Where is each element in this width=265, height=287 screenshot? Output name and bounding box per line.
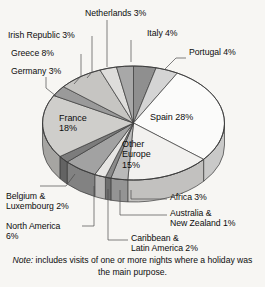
slice-label-australia-new-zealand: Australia & New Zealand 1% <box>170 208 235 229</box>
slice-label-belgium-luxembourg: Belgium & Luxembourg 2% <box>6 191 69 212</box>
pie-chart-figure: Netherlands 3% Italy 4% Portugal 4% Iris… <box>0 0 265 287</box>
slice-label-irish-republic: Irish Republic 3% <box>8 30 75 40</box>
pie-slices-group <box>43 66 225 202</box>
slice-label-spain: Spain 28% <box>150 112 193 122</box>
pie-slice-side <box>111 178 128 202</box>
slice-label-netherlands: Netherlands 3% <box>85 8 146 18</box>
chart-note-prefix: Note: <box>13 255 34 265</box>
slice-label-portugal: Portugal 4% <box>189 47 236 57</box>
leader-germany <box>46 77 56 96</box>
slice-label-france: France 18% <box>59 113 87 134</box>
slice-label-caribbean-latin-america: Caribbean & Latin America 2% <box>131 233 198 254</box>
slice-label-germany: Germany 3% <box>11 66 61 76</box>
leader-irish-republic <box>87 36 92 78</box>
pie-slice-side <box>95 175 106 200</box>
slice-label-italy: Italy 4% <box>147 28 178 38</box>
slice-label-greece: Greece 8% <box>11 48 54 58</box>
leader-portugal <box>165 58 186 69</box>
slice-label-north-america: North America 6% <box>6 221 60 242</box>
chart-note-text: includes visits of one or more nights wh… <box>33 255 252 277</box>
chart-note: Note: includes visits of one or more nig… <box>0 255 265 278</box>
slice-label-other-europe: Other Europe 15% <box>122 139 151 170</box>
slice-label-africa: Africa 3% <box>170 192 207 202</box>
